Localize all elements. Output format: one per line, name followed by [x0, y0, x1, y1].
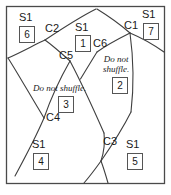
curve-label-c1: C1 [124, 20, 138, 31]
region-4-s-label: S1 [32, 139, 45, 150]
region-1-s-label: S1 [75, 22, 88, 33]
curve-c5-c3 [70, 61, 104, 133]
curve-bottom-fork-left [84, 161, 101, 183]
curve-label-c5: C5 [59, 50, 73, 61]
curve-label-c4: C4 [46, 112, 60, 123]
diagram-canvas: C1 C2 C3 C4 C5 C6 S1 6 S1 1 S1 7 Do not … [0, 0, 171, 195]
region-3-number: 3 [58, 96, 74, 113]
region-2-number: 2 [112, 77, 128, 94]
region-7-number: 7 [143, 23, 159, 40]
region-2-note-line-1: Do not [103, 54, 129, 64]
region-7-s-label: S1 [142, 9, 155, 20]
curve-label-c6: C6 [93, 38, 107, 49]
region-6-s-label: S1 [19, 12, 32, 23]
curve-label-c2: C2 [45, 23, 59, 34]
curve-c6-branch [81, 52, 98, 79]
region-1-number: 1 [75, 35, 91, 52]
curve-label-c3: C3 [103, 136, 117, 147]
region-2-note: Do not shuffle. [103, 54, 129, 75]
region-3-note: Do not shuffle. [33, 83, 86, 93]
curve-bottom-fork-right [101, 161, 108, 183]
region-6-number: 6 [19, 26, 35, 43]
region-4-number: 4 [33, 153, 49, 170]
region-2-note-line-2: shuffle. [103, 64, 129, 74]
region-5-number: 5 [127, 153, 143, 170]
region-5-s-label: S1 [126, 139, 139, 150]
curve-c1-down [130, 33, 133, 112]
